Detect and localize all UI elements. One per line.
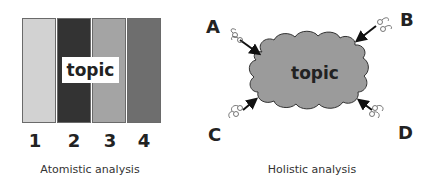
glasses-icon [378, 18, 392, 32]
bar-number-2: 2 [64, 130, 84, 151]
observer-b-label: B [400, 9, 414, 30]
atomistic-analysis-panel: topic 1 2 3 4 Atomistic analysis [0, 0, 200, 187]
arrow-d [360, 101, 372, 110]
observer-d-label: D [398, 122, 413, 143]
atomistic-caption: Atomistic analysis [40, 163, 140, 176]
observer-a-label: A [206, 16, 220, 37]
glasses-icon [229, 105, 243, 118]
bar-number-1: 1 [25, 130, 45, 151]
bar-1 [22, 18, 56, 123]
bar-4 [127, 18, 161, 123]
bar-number-3: 3 [100, 130, 120, 151]
glasses-icon [370, 105, 384, 118]
topic-label: topic [62, 57, 119, 83]
arrow-c [243, 100, 255, 110]
observer-c-label: C [208, 124, 221, 145]
holistic-analysis-panel: topic A B C D Holistic analysis [200, 0, 436, 187]
bar-number-4: 4 [134, 130, 154, 151]
arrow-a [240, 40, 258, 53]
cloud-topic-label: topic [280, 63, 350, 83]
arrow-b [358, 26, 376, 40]
holistic-caption: Holistic analysis [262, 163, 362, 176]
